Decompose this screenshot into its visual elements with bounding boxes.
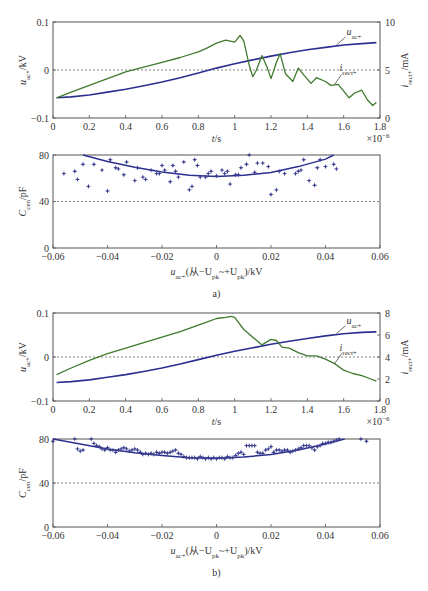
scatter-point: [173, 447, 178, 452]
star-marker: [214, 173, 219, 178]
y-left-axis-label-part: /kV: [17, 341, 28, 357]
scatter-point: [168, 450, 173, 455]
star-marker: [236, 172, 241, 177]
star-marker: [268, 192, 273, 197]
y-left-axis-label-part: ac+: [24, 357, 32, 367]
y-right-tick-label: 5: [385, 65, 390, 76]
x-tick-label: 1.6: [337, 121, 350, 132]
star-marker: [159, 163, 164, 168]
scatter-point: [192, 157, 197, 162]
star-marker: [334, 166, 339, 171]
star-marker: [290, 449, 295, 454]
x-tick-label: 0.6: [156, 121, 169, 132]
y-left-axis-label-part: ac+: [24, 70, 32, 80]
star-marker: [168, 179, 173, 184]
star-marker: [72, 436, 77, 441]
star-marker: [219, 455, 224, 460]
scatter-point: [334, 166, 339, 171]
scatter-point: [143, 451, 148, 456]
x-axis-label: t/s: [212, 133, 222, 144]
scatter-point: [176, 451, 181, 456]
u-annotation-leader: [336, 326, 345, 334]
star-marker: [124, 159, 129, 164]
x-axis-label-part: (从−U: [186, 266, 213, 278]
scatter-point: [206, 455, 211, 460]
scatter-point: [255, 450, 260, 455]
scatter-point: [170, 163, 175, 168]
scatter-point: [176, 175, 181, 180]
scatter-point: [328, 440, 333, 445]
star-marker: [238, 165, 243, 170]
caption-a: a): [213, 288, 221, 300]
scatter-point: [61, 171, 66, 176]
star-marker: [293, 447, 298, 452]
star-marker: [323, 441, 328, 446]
star-marker: [149, 168, 154, 173]
y-tick-label: 80: [39, 150, 49, 161]
scatter-point: [228, 182, 233, 187]
scatter-point: [170, 449, 175, 454]
x-axis-label-part: (从−U: [186, 545, 213, 557]
star-marker: [86, 184, 91, 189]
star-marker: [211, 455, 216, 460]
star-marker: [301, 157, 306, 162]
star-marker: [132, 446, 137, 451]
scatter-point: [80, 162, 85, 167]
x-tick-label: 0: [51, 404, 56, 415]
star-marker: [162, 450, 167, 455]
scatter-point: [80, 447, 85, 452]
panel-b-bottom: −0.06−0.04−0.0200.020.040.0604080: [39, 434, 389, 542]
x-axis-label: uac+(从−Upk~+Upk)/kV: [171, 266, 264, 281]
star-marker: [89, 436, 94, 441]
scatter-point: [252, 443, 257, 448]
scatter-point: [121, 445, 126, 450]
u-annotation-label-part: ac+: [351, 322, 361, 330]
scatter-point: [274, 187, 279, 192]
star-marker: [113, 165, 118, 170]
x-tick-label: −0.02: [150, 530, 173, 541]
x-tick-label: 0.8: [192, 404, 205, 415]
scatter-point: [331, 162, 336, 167]
y-right-axis-label-part: /mA: [399, 52, 410, 71]
star-marker: [255, 161, 260, 166]
x-tick-label: 0.06: [371, 251, 389, 262]
scatter-point: [149, 168, 154, 173]
figure: 00.20.40.60.811.21.41.61.8−0.100.10510ua…: [0, 0, 428, 591]
star-marker: [323, 164, 328, 169]
y-tick-label: 40: [39, 478, 49, 489]
scatter-point: [268, 192, 273, 197]
u-annotation-label: uac+: [346, 315, 361, 330]
star-marker: [121, 445, 126, 450]
star-marker: [200, 455, 205, 460]
scatter-point: [132, 178, 137, 183]
y-axis-label-part: /pF: [17, 468, 28, 482]
scatter-point: [323, 441, 328, 446]
scatter-point: [214, 173, 219, 178]
scatter-point: [260, 161, 265, 166]
y-tick-label: 80: [39, 434, 49, 445]
x-axis-label: t/s: [212, 416, 222, 427]
star-marker: [312, 183, 317, 188]
scatter-point: [236, 172, 241, 177]
scatter-point: [323, 164, 328, 169]
x-tick-label: 0.04: [317, 530, 335, 541]
star-marker: [331, 162, 336, 167]
x-tick-label: 0.04: [317, 251, 335, 262]
y-right-axis-label-part: /mA: [399, 339, 410, 358]
scatter-point: [244, 162, 249, 167]
series-line-u-acplus: [57, 43, 377, 98]
star-marker: [358, 436, 363, 441]
y-axis-label-part: /pF: [17, 186, 28, 200]
scatter-point: [146, 452, 151, 457]
scatter-point: [255, 161, 260, 166]
scatter-point: [307, 178, 312, 183]
star-marker: [214, 456, 219, 461]
x-axis-label-part: )/kV: [244, 266, 263, 278]
star-marker: [274, 187, 279, 192]
star-marker: [143, 451, 148, 456]
star-marker: [168, 450, 173, 455]
scatter-point: [266, 164, 271, 169]
x-axis-label-part: ~+U: [219, 266, 238, 277]
scatter-point: [159, 163, 164, 168]
y-left-tick-label: 0.1: [37, 308, 50, 319]
